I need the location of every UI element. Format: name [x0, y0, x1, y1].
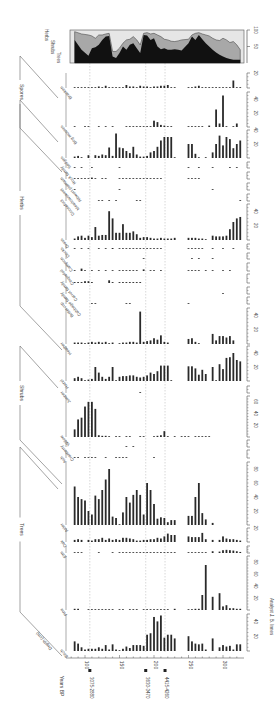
taxon-label: Pine	[59, 607, 69, 617]
bar	[108, 469, 110, 525]
bar	[81, 167, 83, 168]
depth-tick-label: 150	[119, 661, 125, 670]
bar	[98, 342, 100, 344]
bar	[84, 281, 86, 283]
bar	[91, 167, 93, 168]
group-bracket-diagonal	[20, 100, 58, 142]
bar	[226, 87, 228, 88]
bar	[129, 87, 131, 89]
bar	[94, 457, 96, 458]
bar	[105, 248, 107, 249]
bar	[170, 535, 172, 542]
group-label-spores: Spores	[19, 84, 25, 100]
bar	[112, 87, 114, 88]
bar	[212, 270, 214, 271]
bar	[163, 609, 165, 610]
bar	[222, 270, 224, 271]
bar	[139, 157, 141, 158]
bar	[112, 644, 114, 651]
taxon-label: Alder	[59, 522, 70, 533]
bar	[150, 152, 152, 158]
bar	[105, 86, 107, 88]
bar	[119, 457, 121, 458]
bar	[81, 647, 83, 651]
pollen-diagram-canvas: 50100TreesShrubsHerbs20Bracken2040Bog mo…	[0, 0, 278, 727]
bar	[198, 126, 200, 127]
bar	[91, 237, 93, 240]
bar	[129, 178, 131, 179]
bar	[150, 340, 152, 344]
bar	[188, 609, 190, 610]
bar	[91, 342, 93, 344]
bar	[88, 402, 90, 437]
bar	[150, 609, 152, 610]
bar	[146, 126, 148, 127]
bar	[77, 644, 79, 651]
bar	[98, 499, 100, 525]
bar	[212, 248, 214, 249]
depth-tick-label: 200	[153, 661, 159, 670]
bar	[157, 340, 159, 344]
bar	[222, 145, 224, 158]
bar	[163, 431, 165, 437]
bar	[77, 87, 79, 88]
bar	[174, 638, 176, 651]
bar	[163, 86, 165, 88]
bar	[212, 540, 214, 542]
summary-label-shrubs: Shrubs	[50, 40, 55, 55]
bar	[108, 539, 110, 543]
bar	[105, 540, 107, 542]
bar	[122, 148, 124, 158]
bar	[153, 457, 155, 458]
bar	[74, 87, 76, 88]
bar	[101, 155, 103, 159]
tick-label: 40	[253, 313, 258, 319]
bar	[226, 137, 228, 158]
bar	[132, 539, 134, 542]
bar	[94, 409, 96, 437]
bar	[119, 524, 121, 525]
bar	[191, 248, 193, 249]
bar	[126, 248, 128, 249]
bar	[91, 178, 93, 179]
bar	[105, 178, 107, 179]
bar	[195, 238, 197, 240]
bar	[198, 86, 200, 88]
bar	[201, 126, 203, 127]
bar	[160, 609, 162, 610]
bar	[91, 303, 93, 304]
bar	[198, 178, 200, 179]
bar	[219, 647, 221, 651]
date-marker	[144, 669, 147, 672]
bar	[150, 248, 152, 249]
taxon-label: Juniper	[59, 390, 72, 404]
bar	[215, 340, 217, 344]
bar	[84, 380, 86, 381]
bar	[74, 429, 76, 437]
tick-label: 20	[253, 525, 258, 531]
bar	[163, 638, 165, 651]
bar	[212, 87, 214, 88]
bar	[236, 551, 238, 553]
bar	[77, 419, 79, 437]
tick-label: 100	[253, 26, 258, 34]
bar	[74, 343, 76, 344]
bar	[212, 152, 214, 158]
bar	[201, 248, 203, 249]
bar	[84, 178, 86, 179]
bar	[139, 312, 141, 344]
bar	[188, 126, 190, 127]
bar	[157, 122, 159, 127]
tick-label: 40	[253, 96, 258, 102]
bar	[139, 238, 141, 240]
bar	[139, 552, 141, 553]
bar	[191, 126, 193, 127]
bar	[198, 270, 200, 271]
tick-label: 40	[253, 583, 258, 589]
panel-heather: 2040Heather	[59, 308, 258, 356]
bar	[122, 87, 124, 88]
bar	[126, 457, 128, 458]
bar	[191, 144, 193, 158]
tick-label: 40	[253, 494, 258, 500]
bar	[84, 270, 86, 271]
